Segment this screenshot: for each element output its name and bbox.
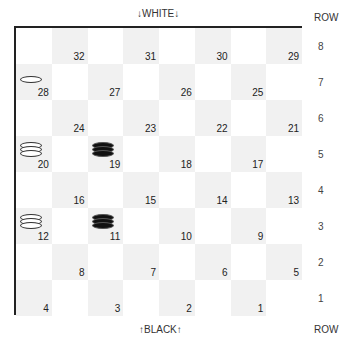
playable-square-24[interactable]: 24 [52, 100, 88, 136]
board-square [88, 100, 124, 136]
board-square [266, 136, 302, 172]
square-number: 2 [186, 303, 192, 314]
square-number: 15 [145, 195, 156, 206]
square-number: 14 [216, 195, 227, 206]
playable-square-29[interactable]: 29 [266, 28, 302, 64]
playable-square-8[interactable]: 8 [52, 244, 88, 280]
row-number-label: 8 [318, 41, 324, 52]
board-square [159, 244, 195, 280]
board-square [123, 136, 159, 172]
black-checker-stack-icon[interactable] [92, 142, 114, 157]
row-number-label: 6 [318, 113, 324, 124]
checker-disk [20, 76, 42, 83]
square-number: 17 [252, 159, 263, 170]
playable-square-28[interactable]: 28 [16, 64, 52, 100]
square-number: 13 [288, 195, 299, 206]
playable-square-12[interactable]: 12 [16, 208, 52, 244]
playable-square-16[interactable]: 16 [52, 172, 88, 208]
playable-square-21[interactable]: 21 [266, 100, 302, 136]
checkers-board: 3231302928272625242322212019181716151413… [14, 26, 302, 315]
row-number-label: 4 [318, 185, 324, 196]
board-square [159, 172, 195, 208]
square-number: 31 [145, 51, 156, 62]
square-number: 1 [258, 303, 264, 314]
row-footer: ROW [314, 324, 338, 335]
playable-square-13[interactable]: 13 [266, 172, 302, 208]
playable-square-6[interactable]: 6 [195, 244, 231, 280]
playable-square-15[interactable]: 15 [123, 172, 159, 208]
square-number: 20 [38, 159, 49, 170]
square-number: 6 [222, 267, 228, 278]
playable-square-10[interactable]: 10 [159, 208, 195, 244]
row-number-label: 7 [318, 77, 324, 88]
playable-square-27[interactable]: 27 [88, 64, 124, 100]
playable-square-2[interactable]: 2 [159, 280, 195, 316]
black-checker-stack-icon[interactable] [92, 214, 114, 229]
board-square [123, 64, 159, 100]
board-square [231, 28, 267, 64]
playable-square-22[interactable]: 22 [195, 100, 231, 136]
square-number: 29 [288, 51, 299, 62]
square-number: 10 [181, 231, 192, 242]
row-header: ROW [314, 12, 338, 23]
square-number: 8 [79, 267, 85, 278]
square-number: 9 [258, 231, 264, 242]
playable-square-26[interactable]: 26 [159, 64, 195, 100]
playable-square-3[interactable]: 3 [88, 280, 124, 316]
board-square [266, 280, 302, 316]
playable-square-18[interactable]: 18 [159, 136, 195, 172]
playable-square-4[interactable]: 4 [16, 280, 52, 316]
square-number: 21 [288, 123, 299, 134]
board-square [159, 28, 195, 64]
playable-square-9[interactable]: 9 [231, 208, 267, 244]
board-square [231, 244, 267, 280]
white-checker-stack-icon[interactable] [20, 214, 42, 229]
top-label-white: ↓WHITE↓ [137, 8, 179, 19]
square-number: 7 [150, 267, 156, 278]
checker-disk [20, 150, 42, 157]
board-square [52, 208, 88, 244]
square-number: 28 [38, 87, 49, 98]
playable-square-20[interactable]: 20 [16, 136, 52, 172]
playable-square-17[interactable]: 17 [231, 136, 267, 172]
playable-square-32[interactable]: 32 [52, 28, 88, 64]
square-number: 24 [73, 123, 84, 134]
board-square [195, 136, 231, 172]
playable-square-30[interactable]: 30 [195, 28, 231, 64]
row-number-label: 3 [318, 221, 324, 232]
board-square [52, 136, 88, 172]
board-square [231, 172, 267, 208]
board-square [266, 208, 302, 244]
playable-square-19[interactable]: 19 [88, 136, 124, 172]
playable-square-23[interactable]: 23 [123, 100, 159, 136]
square-number: 23 [145, 123, 156, 134]
playable-square-14[interactable]: 14 [195, 172, 231, 208]
playable-square-25[interactable]: 25 [231, 64, 267, 100]
playable-square-11[interactable]: 11 [88, 208, 124, 244]
playable-square-7[interactable]: 7 [123, 244, 159, 280]
row-number-label: 5 [318, 149, 324, 160]
white-checker-stack-icon[interactable] [20, 142, 42, 157]
square-number: 25 [252, 87, 263, 98]
square-number: 32 [73, 51, 84, 62]
white-checker-stack-icon[interactable] [20, 76, 42, 83]
checker-disk [92, 150, 114, 157]
playable-square-1[interactable]: 1 [231, 280, 267, 316]
square-number: 19 [109, 159, 120, 170]
board-square [16, 244, 52, 280]
checker-disk [20, 222, 42, 229]
square-number: 5 [293, 267, 299, 278]
board-square [123, 208, 159, 244]
board-square [159, 100, 195, 136]
bottom-label-black: ↑BLACK↑ [139, 324, 182, 335]
playable-square-31[interactable]: 31 [123, 28, 159, 64]
square-number: 18 [181, 159, 192, 170]
checker-disk [92, 222, 114, 229]
board-square [52, 280, 88, 316]
row-number-label: 2 [318, 257, 324, 268]
row-number-label: 1 [318, 293, 324, 304]
square-number: 22 [216, 123, 227, 134]
square-number: 3 [115, 303, 121, 314]
playable-square-5[interactable]: 5 [266, 244, 302, 280]
square-number: 27 [109, 87, 120, 98]
